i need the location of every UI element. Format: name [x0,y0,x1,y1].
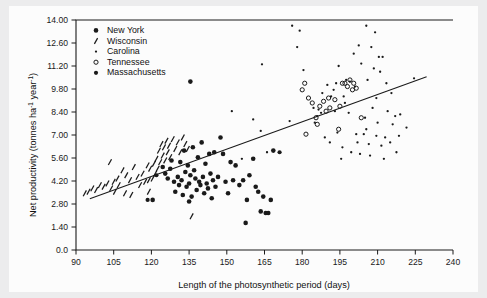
y-tick-label: 5.60 [51,153,68,163]
data-point [337,65,339,67]
legend-label-tennessee: Tennessee [107,57,150,67]
data-point [324,136,326,138]
figure-container: 90105120135150165180195210225240 0.01.40… [0,0,487,298]
legend-label-massachusetts: Massachusetts [107,67,166,77]
x-tick-label: 225 [408,257,423,267]
data-point [155,156,158,162]
data-point [157,148,160,154]
data-point [337,127,341,131]
data-point [348,112,350,114]
data-point [328,106,332,110]
x-tick-label: 90 [71,257,81,267]
data-point [245,198,250,203]
data-point [186,146,189,152]
data-point [91,185,94,191]
data-point [366,79,368,81]
data-point [385,82,387,84]
svg-text:Net productivity (tonnes ha-1: Net productivity (tonnes ha-1 year-1) [27,73,38,217]
x-axis-ticks: 90105120135150165180195210225240 [71,250,460,267]
data-point [213,184,218,189]
data-point [332,89,334,91]
data-point [251,157,256,162]
data-point [182,148,187,153]
data-point [204,181,209,186]
data-point [231,178,236,183]
data-point [398,135,400,137]
x-tick-label: 165 [257,257,272,267]
data-point [121,167,124,173]
data-point [146,162,149,168]
data-point [375,135,377,137]
legend-marker-tennessee [94,60,98,64]
data-point [196,155,201,160]
data-point [373,67,375,69]
data-point [356,141,358,143]
data-point [190,213,193,219]
y-axis-title: Net productivity (tonnes ha-1 year-1) [27,73,38,217]
data-point [268,198,273,203]
data-point [379,71,381,73]
data-point [202,191,207,196]
data-point [405,126,407,128]
x-tick-label: 120 [144,257,159,267]
data-point [117,182,120,188]
data-point [164,158,167,164]
data-point [354,86,358,90]
data-point [189,194,194,199]
data-point [181,135,184,141]
data-point [216,175,221,180]
data-point [374,31,376,33]
data-point [87,189,90,195]
data-point [191,145,196,150]
data-point [223,180,228,185]
data-point [188,79,193,84]
data-point [413,77,415,79]
data-point [147,189,150,195]
data-point [123,190,126,196]
data-point [125,172,128,178]
data-point [192,168,197,173]
data-point [201,175,206,180]
data-point [358,44,360,46]
data-point [389,141,391,143]
legend-marker-wisconsin [94,38,97,44]
x-tick-label: 135 [182,257,197,267]
data-point [154,173,158,177]
data-point [252,118,254,120]
data-point [369,154,371,156]
data-point [321,92,323,94]
data-point [399,113,401,115]
data-point [306,96,310,100]
data-point [381,56,383,58]
data-point [277,150,281,154]
data-point [333,98,337,102]
data-point [136,174,139,180]
data-point [198,183,203,188]
data-point [387,110,389,112]
data-point [211,178,216,183]
data-point [253,184,258,189]
data-point [341,146,343,148]
data-point [371,107,373,109]
data-point [378,56,380,58]
y-tick-label: 2.80 [51,199,68,209]
data-point [226,191,231,196]
data-point [179,149,182,155]
legend-marker-massachusetts [94,71,98,75]
y-axis-ticks: 0.01.402.804.205.607.008.409.8011.2012.6… [46,15,76,255]
data-point [355,133,357,135]
data-point [343,95,345,97]
data-point [241,178,246,183]
legend-label-wisconsin: Wisconsin [107,36,147,46]
data-point [390,92,392,94]
data-point [375,97,377,99]
data-point [184,141,187,147]
data-point [166,149,169,155]
data-point [98,182,101,188]
data-point [260,130,262,132]
data-point [138,182,141,188]
data-point [209,196,214,201]
data-point [159,159,162,165]
data-point [384,136,386,138]
data-point [181,193,186,198]
